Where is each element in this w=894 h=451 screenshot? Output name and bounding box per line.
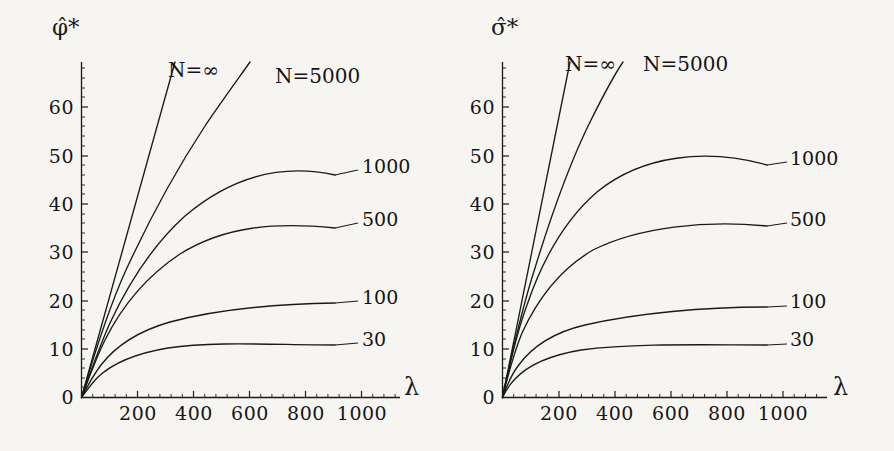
y-tick-label-20: 20 xyxy=(461,292,495,311)
y-tick-label-0: 0 xyxy=(461,388,495,407)
x-axis-title: λ xyxy=(404,375,419,399)
x-tick-label-200: 200 xyxy=(529,404,589,423)
y-tick-label-60: 60 xyxy=(461,98,495,117)
curve-30 xyxy=(82,344,336,398)
curve-group xyxy=(503,62,768,398)
curve-label-1000: 1000 xyxy=(362,157,410,176)
x-tick-label-600: 600 xyxy=(220,404,280,423)
curve-label-500: 500 xyxy=(362,210,398,229)
y-tick-label-10: 10 xyxy=(40,340,74,359)
y-major-ticks xyxy=(82,107,89,349)
y-axis-title: φ̂* xyxy=(52,16,80,39)
x-tick-label-1000: 1000 xyxy=(753,404,813,423)
label-leader-lines xyxy=(767,162,787,345)
curve-label-N-5000: N=5000 xyxy=(643,54,728,74)
x-tick-label-200: 200 xyxy=(108,404,168,423)
curve-N-5000 xyxy=(82,62,251,398)
y-axis-title: σ̂* xyxy=(491,16,518,39)
y-tick-label-10: 10 xyxy=(461,340,495,359)
figure-container: φ̂* λ 0 10 20 30 40 50 60 200 400 600 80… xyxy=(0,0,894,451)
y-tick-label-0: 0 xyxy=(40,388,74,407)
x-tick-label-600: 600 xyxy=(641,404,701,423)
y-tick-label-20: 20 xyxy=(40,292,74,311)
curve-group xyxy=(82,62,336,398)
x-axis-title: λ xyxy=(833,375,848,399)
curve-500 xyxy=(503,224,768,398)
y-tick-label-50: 50 xyxy=(461,147,495,166)
curve-30 xyxy=(503,345,768,398)
curve-100 xyxy=(82,303,336,398)
y-major-ticks xyxy=(503,107,510,349)
curve-label-1000: 1000 xyxy=(790,149,838,168)
y-tick-label-60: 60 xyxy=(40,98,74,117)
x-tick-label-800: 800 xyxy=(697,404,757,423)
x-tick-label-1000: 1000 xyxy=(332,404,392,423)
y-tick-label-30: 30 xyxy=(461,243,495,262)
label-leader-lines xyxy=(335,170,358,345)
chart-panel-phi: φ̂* λ 0 10 20 30 40 50 60 200 400 600 80… xyxy=(0,0,447,451)
curve-label-500: 500 xyxy=(790,210,826,229)
y-tick-label-40: 40 xyxy=(461,195,495,214)
x-tick-label-400: 400 xyxy=(585,404,645,423)
y-tick-label-50: 50 xyxy=(40,147,74,166)
y-tick-label-30: 30 xyxy=(40,243,74,262)
x-tick-label-800: 800 xyxy=(276,404,336,423)
curve-label-N-infinity: N=∞ xyxy=(168,60,219,80)
curve-label-100: 100 xyxy=(790,292,826,311)
curve-500 xyxy=(82,226,336,398)
curve-label-100: 100 xyxy=(362,288,398,307)
curve-N-infinity xyxy=(82,62,176,398)
curve-label-30: 30 xyxy=(790,330,814,349)
curve-label-30: 30 xyxy=(362,330,386,349)
curve-label-N-infinity: N=∞ xyxy=(565,54,616,74)
y-tick-label-40: 40 xyxy=(40,195,74,214)
curve-label-N-5000: N=5000 xyxy=(275,66,360,86)
x-tick-label-400: 400 xyxy=(164,404,224,423)
curve-100 xyxy=(503,307,768,398)
chart-panel-sigma: σ̂* λ 0 10 20 30 40 50 60 200 400 600 80… xyxy=(447,0,894,451)
